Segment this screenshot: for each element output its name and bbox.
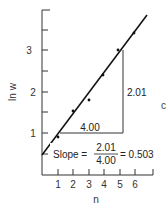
run-label: 4.00 [80, 122, 100, 133]
x-tick-label-3: 3 [86, 179, 92, 190]
data-point [117, 49, 120, 52]
slope-numerator: 2.01 [96, 142, 116, 153]
data-point [57, 136, 60, 139]
x-tick-label-1: 1 [55, 179, 61, 190]
y-tick-label-3: 3 [26, 45, 32, 56]
edge-text-fragment: c [161, 100, 166, 111]
fit-line [42, 15, 147, 155]
slope-result: = 0.503 [120, 149, 154, 160]
x-tick-label-2: 2 [70, 179, 76, 190]
data-point [72, 110, 75, 113]
x-ticks [58, 169, 153, 175]
slope-denominator: 4.00 [96, 155, 116, 166]
x-tick-label-4: 4 [101, 179, 107, 190]
slope-triangle [60, 50, 123, 133]
x-tick-label-6: 6 [132, 179, 138, 190]
y-ticks [42, 10, 50, 154]
y-tick-label-1: 1 [30, 128, 36, 139]
y-axis-title: ln w [7, 82, 18, 101]
data-point [102, 74, 105, 77]
slope-prefix: Slope = [53, 149, 87, 160]
rise-label: 2.01 [127, 87, 147, 98]
data-point [133, 32, 136, 35]
data-point [88, 99, 91, 102]
x-tick-label-5: 5 [117, 179, 123, 190]
x-axis-title: n [93, 194, 99, 205]
y-tick-label-2: 2 [30, 87, 36, 98]
chart: 3 2 1 1 2 3 4 5 6 n ln w 4.00 2.01 Slope… [0, 0, 166, 217]
